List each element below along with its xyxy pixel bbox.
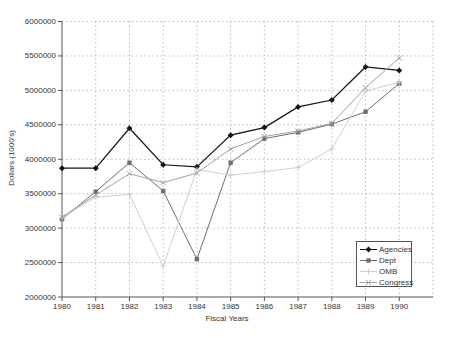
legend-label-dept: Dept — [379, 256, 396, 265]
y-tick-label: 2000000 — [25, 293, 57, 302]
series-dept-marker-1982 — [127, 160, 131, 164]
legend-marker-agencies-icon — [359, 245, 379, 254]
chart-page: 2000000250000030000003500000400000045000… — [0, 0, 452, 338]
x-tick-label: 1987 — [289, 302, 307, 311]
y-tick-label: 4500000 — [25, 120, 57, 129]
series-agencies-marker-1986 — [261, 125, 267, 131]
legend-marker-glyph — [366, 269, 372, 275]
series-dept-marker-1985 — [228, 160, 232, 164]
series-agencies-marker-1980 — [59, 165, 65, 171]
x-tick-label: 1988 — [323, 302, 341, 311]
y-tick-label: 3500000 — [25, 189, 57, 198]
y-tick-label: 5000000 — [25, 86, 57, 95]
y-tick-label: 4000000 — [25, 155, 57, 164]
legend-label-agencies: Agencies — [379, 245, 412, 254]
x-tick-label: 1985 — [222, 302, 240, 311]
legend-item-congress: Congress — [357, 277, 411, 288]
x-tick-label: 1989 — [357, 302, 375, 311]
legend-marker-glyph — [366, 258, 370, 262]
legend-item-agencies: Agencies — [357, 244, 411, 255]
series-omb-marker-1986 — [262, 169, 268, 175]
x-tick-label: 1982 — [121, 302, 139, 311]
series-dept-marker-1983 — [161, 189, 165, 193]
series-omb-marker-1987 — [295, 165, 301, 171]
series-agencies-marker-1990 — [396, 67, 402, 73]
legend-marker-dept-icon — [359, 256, 379, 265]
legend-marker-congress-icon — [359, 278, 379, 287]
series-omb-marker-1982 — [127, 192, 133, 198]
x-axis-title: Fiscal Years — [62, 314, 392, 323]
y-tick-label: 5500000 — [25, 51, 57, 60]
series-dept-marker-1984 — [195, 257, 199, 261]
y-tick-label: 2500000 — [25, 258, 57, 267]
x-tick-label: 1980 — [53, 302, 71, 311]
legend-item-dept: Dept — [357, 255, 411, 266]
series-omb-marker-1983 — [160, 263, 166, 269]
series-dept-marker-1989 — [363, 110, 367, 114]
legend-label-omb: OMB — [379, 267, 397, 276]
series-congress-marker-1985 — [228, 146, 233, 151]
legend: Agencies Dept OMB Congress — [356, 241, 412, 287]
series-omb-marker-1988 — [329, 146, 335, 152]
y-tick-label: 6000000 — [25, 17, 57, 26]
x-tick-label: 1990 — [390, 302, 408, 311]
legend-marker-glyph — [366, 247, 372, 253]
legend-item-omb: OMB — [357, 266, 411, 277]
x-tick-label: 1984 — [188, 302, 206, 311]
x-tick-label: 1981 — [87, 302, 105, 311]
legend-label-congress: Congress — [379, 278, 413, 287]
series-dept-line — [62, 83, 399, 259]
series-omb-marker-1985 — [228, 172, 234, 178]
legend-marker-omb-icon — [359, 267, 379, 276]
series-agencies-marker-1987 — [295, 104, 301, 110]
y-axis-title: Dollars (1000's) — [7, 130, 16, 186]
y-tick-label: 3000000 — [25, 224, 57, 233]
x-tick-label: 1983 — [154, 302, 172, 311]
x-tick-label: 1986 — [255, 302, 273, 311]
